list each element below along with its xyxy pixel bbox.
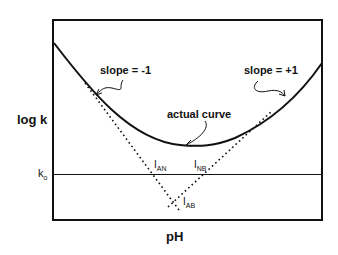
asymptote-slope-plus-1	[168, 111, 272, 207]
intersection-an-label: IAN	[154, 159, 167, 172]
slope-plus-1-label: slope = +1	[244, 64, 298, 76]
actual-curve-label: actual curve	[167, 108, 231, 120]
intersection-ab-sub: AB	[186, 202, 195, 209]
pointer-arrow-right	[254, 81, 285, 96]
x-axis-label: pH	[166, 229, 183, 244]
intersection-nb-sub: NB	[197, 165, 207, 172]
intersection-an-sub: AN	[157, 165, 167, 172]
y-axis-label: log k	[17, 112, 47, 127]
k0-label-sub: o	[44, 174, 48, 181]
plot-frame	[53, 20, 322, 220]
pointer-arrow-left	[96, 80, 123, 95]
slope-minus-1-label: slope = -1	[100, 64, 151, 76]
asymptote-slope-minus-1	[85, 83, 179, 210]
diagram-canvas	[0, 0, 338, 255]
intersection-ab-label: IAB	[183, 196, 195, 209]
k0-label: ko	[38, 167, 47, 181]
intersection-nb-label: INB	[194, 159, 207, 172]
